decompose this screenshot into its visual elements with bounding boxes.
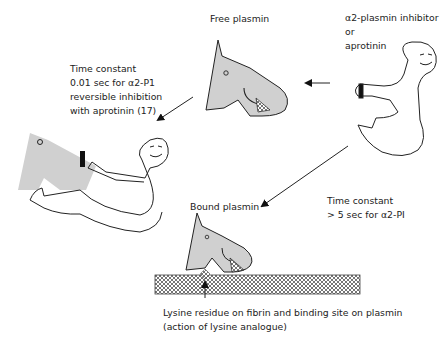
diagram-figure xyxy=(0,0,447,339)
fibrin-bar xyxy=(155,275,360,294)
free-plasmin-shape xyxy=(206,40,288,116)
complex-figure xyxy=(18,133,168,232)
arrow-plasmin-to-complex xyxy=(158,97,193,120)
inhibitor-figure xyxy=(355,42,436,156)
arrow-inhibitor-to-bound xyxy=(262,146,348,206)
bound-plasmin-shape xyxy=(186,213,252,272)
